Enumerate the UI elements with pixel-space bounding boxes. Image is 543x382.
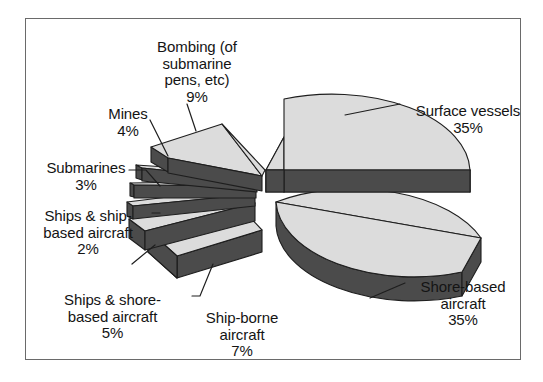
label-bombing-text: Bombing (of submarine pens, etc) bbox=[157, 38, 237, 89]
label-ships-shore-based-text: Ships & shore- based aircraft bbox=[64, 291, 161, 325]
label-ships-shore-based-value: 5% bbox=[40, 325, 185, 342]
label-ship-borne-aircraft: Ship-borne aircraft 7% bbox=[188, 293, 296, 377]
label-submarines-text: Submarines bbox=[46, 159, 125, 176]
chart-page: .top { fill:#dcdcdc; stroke:#1e1e1e; str… bbox=[0, 0, 543, 382]
label-mines-value: 4% bbox=[86, 123, 170, 140]
label-mines-text: Mines bbox=[108, 105, 148, 122]
label-shore-based-text: Shore-based aircraft bbox=[421, 278, 506, 312]
label-shore-based-value: 35% bbox=[404, 312, 522, 329]
label-surface-vessels: Surface vessels 35% bbox=[404, 86, 532, 153]
label-ships-shore-based-aircraft: Ships & shore- based aircraft 5% bbox=[40, 275, 185, 359]
label-ship-borne-text: Ship-borne aircraft bbox=[206, 309, 278, 343]
label-surface-vessels-text: Surface vessels bbox=[416, 102, 520, 119]
label-surface-vessels-value: 35% bbox=[404, 120, 532, 137]
label-ships-ship-based-value: 2% bbox=[18, 241, 158, 258]
label-ships-ship-based-aircraft: Ships & ship- based aircraft 2% bbox=[18, 191, 158, 275]
label-ship-borne-value: 7% bbox=[188, 343, 296, 360]
label-shore-based-aircraft: Shore-based aircraft 35% bbox=[404, 262, 522, 346]
label-ships-ship-based-text: Ships & ship- based aircraft bbox=[43, 207, 132, 241]
